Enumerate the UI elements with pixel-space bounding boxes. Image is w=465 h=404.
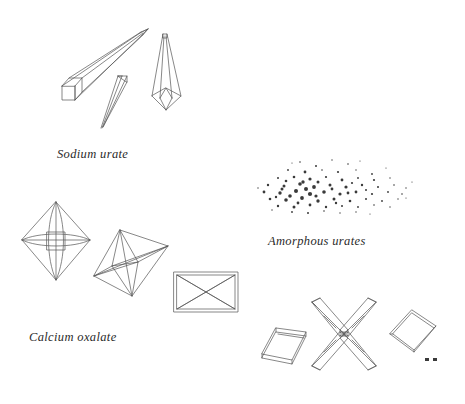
calcium-oxalate-rhombic-plate-right (390, 310, 436, 352)
crystal-illustration-plate: Sodium urate Amorphous urates Calcium ox… (0, 0, 465, 404)
calcium-oxalate-octahedron-oblique (94, 230, 168, 296)
calcium-oxalate-rectangular-envelope (174, 272, 238, 312)
sodium-urate-long-prism (62, 29, 148, 100)
calcium-oxalate-twinned-cross (312, 298, 376, 370)
amorphous-urate-granules (257, 159, 412, 214)
calcium-oxalate-specks (425, 358, 437, 361)
sodium-urate-thin-needle (101, 76, 127, 128)
caption-calcium-oxalate: Calcium oxalate (29, 330, 117, 345)
calcium-oxalate-octahedron-front (22, 202, 90, 280)
caption-sodium-urate: Sodium urate (57, 147, 128, 162)
caption-amorphous-urates: Amorphous urates (268, 234, 366, 249)
sodium-urate-upright-needle (152, 34, 181, 110)
calcium-oxalate-rhombic-plate-left (262, 328, 306, 364)
